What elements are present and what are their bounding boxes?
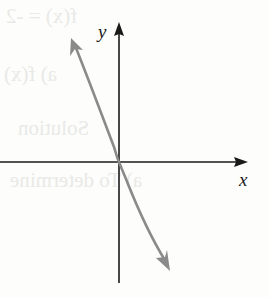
graph-figure: f(x) = -2 a) f(x) Solution a) To determi… — [0, 0, 269, 298]
curve-lower-arrowhead — [156, 250, 170, 271]
x-axis-label: x — [239, 170, 247, 189]
curve-upper-arrowhead — [70, 38, 83, 56]
y-axis-label: y — [98, 22, 106, 41]
graph-canvas — [0, 0, 269, 298]
x-axis — [0, 157, 248, 167]
y-axis-arrowhead — [114, 22, 124, 36]
x-axis-arrowhead — [234, 157, 248, 167]
function-curve — [70, 38, 170, 271]
